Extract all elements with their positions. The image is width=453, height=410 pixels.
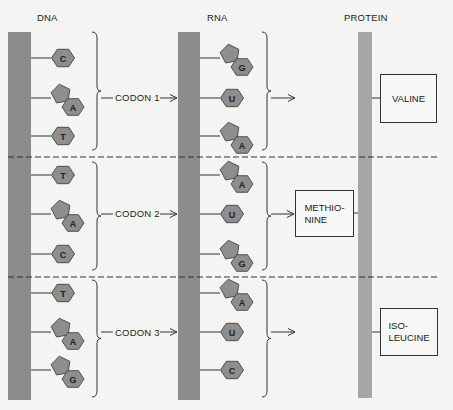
rna-codon-1-base-1-letter: G	[238, 63, 245, 73]
amino-acid-label-line-1: METHIO-	[304, 202, 344, 214]
amino-acid-valine-box: VALINE	[380, 74, 437, 123]
rna-codon-1-base-3-letter: A	[239, 141, 246, 151]
amino-acid-label-line-2: NINE	[304, 214, 344, 226]
dna-codon-1-base-1-letter: C	[60, 54, 67, 64]
rna-codon-3-base-1-letter: A	[239, 298, 246, 308]
dna-codon-1-base-3-letter: T	[60, 132, 66, 142]
dna-header: DNA	[37, 12, 58, 23]
codon-2-label: CODON 2	[115, 208, 160, 219]
protein-header: PROTEIN	[344, 12, 388, 23]
rna-codon-2-base-2-letter: U	[229, 210, 236, 220]
rna-codon-2-bracket	[262, 162, 271, 270]
rna-strand	[178, 32, 200, 400]
amino-acid-isoleucine-box: ISO- LEUCINE	[380, 308, 438, 356]
rna-codon-1-base-2-letter: U	[229, 94, 236, 104]
rna-codon-3-base-3-letter: C	[229, 366, 236, 376]
rna-codon-2-base-1-letter: A	[239, 180, 246, 190]
dna-codon-2-base-1-letter: T	[60, 171, 66, 181]
rna-header: RNA	[207, 12, 228, 23]
dna-codon-2-bracket	[92, 162, 101, 270]
dna-codon-1-base-2-letter: A	[70, 103, 77, 113]
dna-codon-2-base-3-letter: C	[60, 250, 67, 260]
dna-rna-protein-diagram: CATGUATACAUGTAGAUC DNA RNA PROTEIN CODON…	[0, 0, 453, 410]
rna-codon-1-bracket	[262, 32, 271, 150]
dna-codon-3-bracket	[92, 280, 101, 397]
rna-codon-2-base-3-letter: G	[238, 259, 245, 269]
amino-acid-methionine-box: METHIO- NINE	[295, 190, 354, 237]
amino-acid-label: VALINE	[392, 93, 425, 105]
dna-codon-3-base-1-letter: T	[60, 289, 66, 299]
rna-codon-3-base-2-letter: U	[229, 328, 236, 338]
codon-3-label: CODON 3	[115, 327, 160, 338]
protein-strand	[358, 32, 372, 398]
dna-codon-1-bracket	[92, 32, 101, 150]
dna-strand	[8, 32, 31, 400]
codon-1-label: CODON 1	[115, 92, 160, 103]
dna-codon-3-base-3-letter: G	[69, 375, 76, 385]
rna-codon-3-bracket	[262, 280, 271, 397]
dna-codon-2-base-2-letter: A	[70, 219, 77, 229]
dna-codon-3-base-2-letter: A	[70, 337, 77, 347]
amino-acid-label-line-1: ISO-	[388, 320, 429, 332]
amino-acid-label-line-2: LEUCINE	[388, 332, 429, 344]
